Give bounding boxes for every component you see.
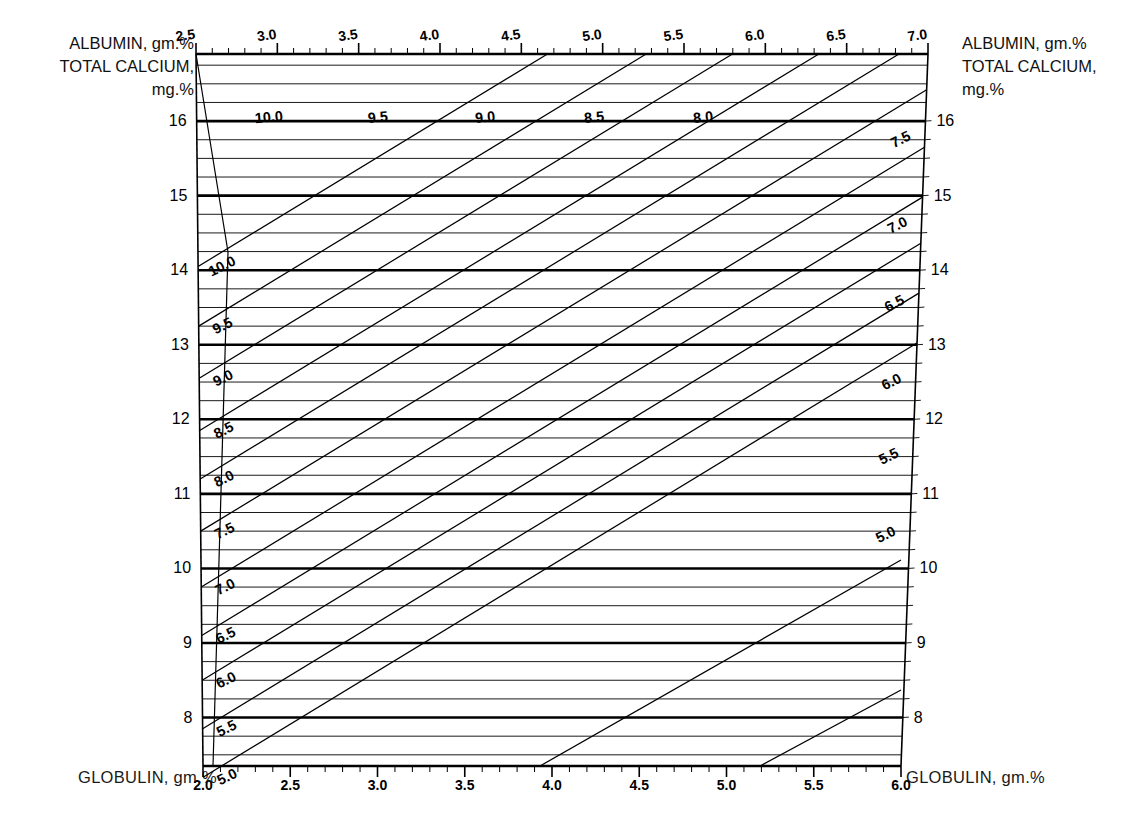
globulin-tick-label: 5.5 — [804, 777, 824, 793]
calcium-tick-label-left: 12 — [172, 410, 190, 427]
total-protein-isopleth — [202, 197, 923, 635]
isopleth-labels-group: 10.09.59.08.58.010.09.59.08.58.07.57.06.… — [206, 108, 913, 788]
minor-gridlines-group — [196, 65, 927, 755]
isopleth-label-top: 8.5 — [583, 108, 604, 126]
calcium-tick-label-right: 9 — [917, 634, 926, 651]
total-protein-isopleth — [198, 54, 547, 266]
total-protein-isopleth — [201, 147, 924, 587]
calcium-tick-label-right: 15 — [934, 187, 952, 204]
albumin-tick-label: 3.0 — [256, 26, 278, 45]
nomogram-plot: 2.53.03.54.04.55.05.56.06.57.02.02.53.03… — [0, 0, 1147, 824]
calcium-tick-label-left: 9 — [183, 634, 192, 651]
total-protein-isopleth — [199, 54, 646, 326]
isopleth-label-right: 5.5 — [876, 444, 901, 467]
calcium-tick-label-right: 12 — [925, 410, 943, 427]
isopleth-label-right: 5.0 — [873, 523, 898, 546]
total-protein-isopleth-group — [196, 54, 927, 777]
total-protein-isopleth — [203, 343, 917, 777]
calcium-tick-label-left: 13 — [171, 336, 189, 353]
albumin-tick-label: 4.5 — [500, 26, 522, 45]
calcium-tick-label-left: 11 — [174, 485, 191, 502]
isopleth-label-left: 10.0 — [206, 253, 238, 280]
albumin-tick-label: 5.5 — [663, 26, 685, 45]
calcium-tick-label-right: 10 — [919, 559, 937, 576]
isopleth-label-top: 9.5 — [367, 108, 388, 126]
calcium-tick-label-left: 8 — [184, 709, 193, 726]
isopleth-label-top: 10.0 — [254, 108, 284, 126]
plot-border-left — [196, 54, 203, 766]
plot-border-right — [901, 54, 928, 766]
total-protein-isopleth — [540, 560, 901, 766]
calcium-tick-label-left: 16 — [169, 112, 187, 129]
plot-border — [196, 54, 928, 766]
albumin-tick-label: 4.0 — [419, 26, 441, 45]
albumin-tick-label: 3.5 — [337, 26, 359, 45]
globulin-tick-label: 5.0 — [717, 777, 737, 793]
globulin-tick-label: 3.0 — [368, 777, 388, 793]
isopleth-label-right: 6.5 — [882, 292, 907, 315]
globulin-tick-label: 4.5 — [630, 777, 650, 793]
total-protein-isopleth — [202, 243, 921, 680]
calcium-tick-label-right: 13 — [928, 336, 946, 353]
calcium-tick-label-left: 14 — [170, 261, 188, 278]
globulin-tick-label: 6.0 — [891, 777, 911, 793]
isopleth-label-right: 7.5 — [888, 128, 913, 151]
albumin-tick-label: 5.0 — [581, 26, 603, 45]
isopleth-label-top: 9.0 — [474, 108, 495, 126]
calcium-tick-label-right: 8 — [914, 709, 923, 726]
albumin-tick-label: 6.5 — [825, 26, 847, 45]
globulin-tick-label: 3.5 — [455, 777, 475, 793]
total-protein-isopleth — [200, 54, 899, 479]
total-protein-isopleth — [203, 293, 919, 729]
globulin-tick-label: 4.0 — [542, 777, 562, 793]
albumin-tick-label: 7.0 — [907, 26, 929, 45]
calcium-tick-label-left: 15 — [170, 187, 188, 204]
calcium-tick-label-left: 10 — [173, 559, 191, 576]
total-protein-isopleth — [200, 54, 819, 431]
isopleth-label-right: 6.0 — [879, 370, 904, 393]
calcium-tick-label-right: 16 — [936, 112, 954, 129]
albumin-tick-label: 6.0 — [744, 26, 766, 45]
total-protein-isopleth — [201, 90, 927, 531]
calcium-tick-label-right: 14 — [931, 261, 949, 278]
globulin-tick-label: 2.5 — [281, 777, 301, 793]
isopleth-label-top: 8.0 — [692, 108, 713, 126]
albumin-tick-label: 2.5 — [175, 26, 197, 45]
calcium-tick-label-right: 11 — [922, 485, 939, 502]
globulin-tick-label: 2.0 — [193, 777, 213, 793]
